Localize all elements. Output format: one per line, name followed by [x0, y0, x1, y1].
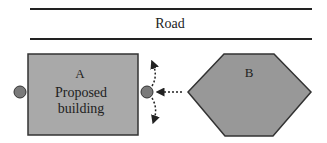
arrow-down-icon	[152, 98, 156, 120]
entrance-marker-right	[141, 86, 153, 98]
building-a-letter: A	[75, 66, 85, 81]
entrance-marker-left	[14, 86, 26, 98]
building-a-label-line2: building	[58, 101, 105, 116]
site-diagram: Road A Proposed building B	[0, 0, 327, 143]
arrow-up-icon	[152, 64, 155, 86]
road-label: Road	[155, 16, 185, 31]
building-b-letter: B	[245, 65, 254, 80]
building-a-label-line1: Proposed	[55, 85, 107, 100]
